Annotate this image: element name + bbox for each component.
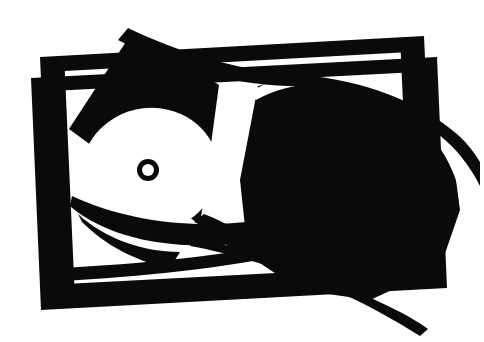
eye-group <box>137 159 159 181</box>
artwork-canvas: Abstract Fish High-contrast black and wh… <box>0 0 484 342</box>
eye-inner-hole <box>142 164 154 176</box>
body-mass <box>0 0 484 342</box>
abstract-fish-illustration <box>0 0 484 342</box>
